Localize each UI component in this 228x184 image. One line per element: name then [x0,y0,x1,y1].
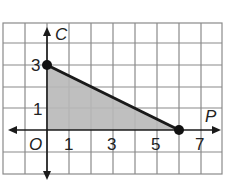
point-y-intercept [42,60,52,70]
coordinate-graph: C P O 3 1 1 3 5 7 [0,0,228,184]
origin-label: O [29,135,42,154]
y-axis-up-arrow-icon [43,27,51,36]
x-tick-label-3: 3 [107,135,116,154]
y-axis-down-arrow-icon [43,171,51,180]
x-tick-label-1: 1 [64,135,73,154]
y-axis-label: C [55,25,68,44]
y-tick-label-1: 1 [33,100,42,119]
x-axis-right-arrow-icon [212,126,221,134]
y-tick-label-3: 3 [31,56,40,75]
x-axis-label: P [205,107,217,126]
x-axis-left-arrow-icon [8,126,17,134]
point-x-intercept [174,125,184,135]
x-tick-label-5: 5 [151,135,160,154]
x-tick-label-7: 7 [195,135,204,154]
